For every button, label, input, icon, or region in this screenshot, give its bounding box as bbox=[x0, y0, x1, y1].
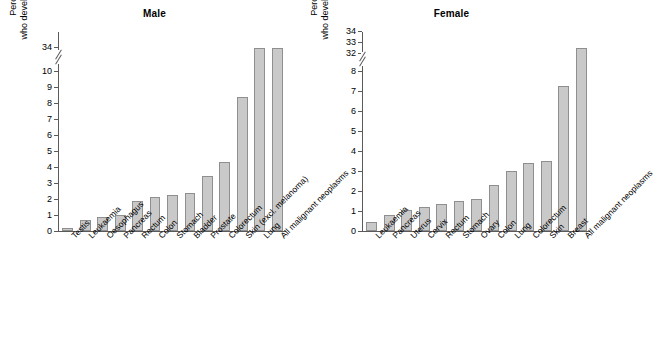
chart-panel-female: Female Percentage of cohort who develop … bbox=[301, 0, 602, 354]
y-tick-label: 4 bbox=[334, 147, 356, 156]
y-tick bbox=[54, 183, 58, 184]
y-tick-label: 3 bbox=[30, 179, 52, 188]
y-tick-label: 32 bbox=[334, 49, 356, 58]
y-tick-label: 5 bbox=[30, 147, 52, 156]
y-tick-label: 6 bbox=[30, 131, 52, 140]
bar bbox=[237, 97, 248, 231]
y-tick bbox=[358, 231, 362, 232]
y-axis-title-line2: who develop cancer over lifetime bbox=[19, 0, 30, 54]
y-axis-title-line1: Percentage of cohort bbox=[309, 0, 320, 54]
y-tick-label: 10 bbox=[30, 67, 52, 76]
y-tick bbox=[358, 31, 362, 32]
y-tick-label: 7 bbox=[30, 115, 52, 124]
y-tick-label: 1 bbox=[30, 211, 52, 220]
y-tick-label: 34 bbox=[30, 43, 52, 52]
y-tick bbox=[358, 131, 362, 132]
y-tick bbox=[54, 135, 58, 136]
y-axis-title-female: Percentage of cohort who develop cancer … bbox=[309, 0, 333, 54]
x-axis-labels-female: LeukaemiaPancreasUterusCervixRectumStoma… bbox=[362, 234, 602, 352]
chart-panel-male: Male Percentage of cohort who develop ca… bbox=[0, 0, 301, 354]
y-tick bbox=[358, 71, 362, 72]
y-tick bbox=[54, 47, 58, 48]
bar-series-female bbox=[363, 32, 590, 231]
y-axis-title-line1: Percentage of cohort bbox=[8, 0, 19, 54]
y-tick bbox=[54, 119, 58, 120]
y-tick bbox=[54, 167, 58, 168]
y-tick bbox=[358, 42, 362, 43]
y-tick-label: 9 bbox=[30, 83, 52, 92]
y-tick-label: 0 bbox=[30, 227, 52, 236]
y-tick-label: 0 bbox=[334, 227, 356, 236]
y-tick-label: 2 bbox=[30, 195, 52, 204]
y-tick bbox=[54, 103, 58, 104]
chart-title-female: Female bbox=[301, 8, 602, 19]
chart-title-male: Male bbox=[0, 8, 305, 19]
y-tick-label: 7 bbox=[334, 87, 356, 96]
y-tick bbox=[54, 151, 58, 152]
y-tick bbox=[358, 111, 362, 112]
y-tick-label: 3 bbox=[334, 167, 356, 176]
y-tick-label: 4 bbox=[30, 163, 52, 172]
x-axis-labels-male: TestisLeukaemiaOesophagusPancreasRectumC… bbox=[58, 234, 298, 352]
y-tick-label: 8 bbox=[334, 67, 356, 76]
plot-area-female: 012345678323334 bbox=[362, 32, 590, 232]
y-tick bbox=[358, 191, 362, 192]
y-tick-label: 6 bbox=[334, 107, 356, 116]
y-tick bbox=[54, 71, 58, 72]
y-tick bbox=[54, 215, 58, 216]
y-tick-label: 5 bbox=[334, 127, 356, 136]
y-tick-label: 8 bbox=[30, 99, 52, 108]
y-tick-label: 34 bbox=[334, 27, 356, 36]
y-tick bbox=[54, 87, 58, 88]
y-axis-title-male: Percentage of cohort who develop cancer … bbox=[8, 0, 32, 54]
y-tick bbox=[54, 231, 58, 232]
bar bbox=[576, 48, 587, 232]
y-tick-label: 1 bbox=[334, 207, 356, 216]
y-tick-label: 2 bbox=[334, 187, 356, 196]
y-tick bbox=[358, 211, 362, 212]
y-tick-label: 33 bbox=[334, 38, 356, 47]
y-tick bbox=[54, 199, 58, 200]
y-tick bbox=[358, 151, 362, 152]
y-tick bbox=[358, 171, 362, 172]
y-tick bbox=[358, 91, 362, 92]
plot-area-male: 01234567891034 bbox=[58, 32, 286, 232]
x-axis-label: All malignant neoplasms bbox=[583, 169, 655, 241]
y-axis-title-line2: who develop cancer over lifetime bbox=[320, 0, 331, 54]
bar-series-male bbox=[59, 32, 286, 231]
